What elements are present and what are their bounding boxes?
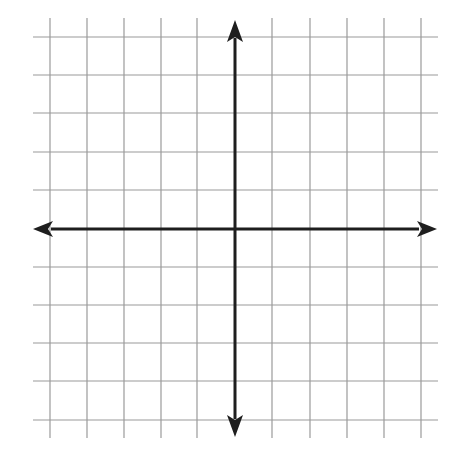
coordinate-plane <box>0 0 453 452</box>
arrow-right-icon <box>417 221 437 237</box>
axes <box>33 20 437 437</box>
